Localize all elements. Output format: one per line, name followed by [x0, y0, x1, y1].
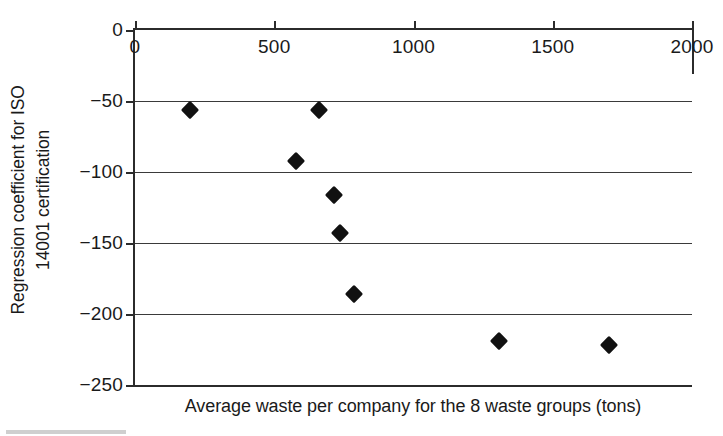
- y-tick-label: −150: [79, 232, 123, 254]
- y-tick-mark: [126, 385, 135, 387]
- x-tick-mark: [553, 21, 555, 30]
- x-tick-mark: [414, 21, 416, 30]
- y-tick-mark: [126, 243, 135, 245]
- chart-figure: Regression coefficient for ISO 14001 cer…: [0, 0, 723, 436]
- data-point-marker: [600, 336, 618, 354]
- data-point-marker: [287, 151, 305, 169]
- x-tick-mark: [274, 21, 276, 30]
- plot-area: 0−50−100−150−200−250 0500100015002000: [133, 28, 692, 387]
- y-tick-mark: [126, 314, 135, 316]
- data-point-marker: [331, 224, 349, 242]
- x-tick-mark: [135, 21, 137, 30]
- y-axis-title-line-1: Regression coefficient for ISO: [6, 85, 31, 314]
- x-tick-label: 1000: [392, 36, 435, 58]
- y-tick-label: −250: [79, 374, 123, 396]
- x-tick-label: 0: [130, 36, 141, 58]
- x-axis-title: Average waste per company for the 8 wast…: [133, 396, 693, 417]
- data-point-marker: [490, 332, 508, 350]
- gridline-y: [135, 314, 692, 315]
- y-tick-label: −200: [79, 303, 123, 325]
- y-axis-title: Regression coefficient for ISO 14001 cer…: [0, 0, 62, 400]
- y-tick-mark: [126, 30, 135, 32]
- page-edge-artifact: [6, 430, 126, 434]
- x-tick-mark: [692, 21, 694, 30]
- y-axis-title-text: Regression coefficient for ISO 14001 cer…: [6, 85, 56, 314]
- y-tick-mark: [126, 101, 135, 103]
- y-tick-label: −50: [90, 90, 123, 112]
- data-point-marker: [345, 285, 363, 303]
- gridline-y: [135, 172, 692, 173]
- x-tick-label: 2000: [670, 36, 713, 58]
- data-point-marker: [310, 100, 328, 118]
- gridline-y: [135, 243, 692, 244]
- data-point-marker: [325, 186, 343, 204]
- gridline-y: [135, 101, 692, 102]
- y-axis-title-line-2: 14001 certification: [31, 85, 56, 314]
- x-tick-label: 1500: [531, 36, 574, 58]
- data-point-marker: [181, 100, 199, 118]
- x-tick-label: 500: [258, 36, 290, 58]
- y-tick-label: −100: [79, 161, 123, 183]
- y-tick-label: 0: [112, 19, 123, 41]
- y-tick-mark: [126, 172, 135, 174]
